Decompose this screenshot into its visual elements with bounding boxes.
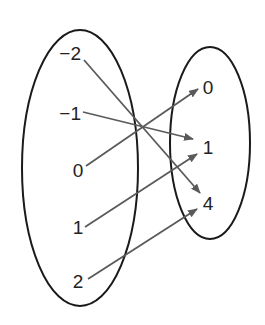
domain-value-1: 1: [73, 217, 84, 238]
domain-value-2: 2: [73, 271, 84, 292]
domain-value-neg1: −1: [59, 103, 81, 124]
mapping-diagram: −2 −1 0 1 2 0 1 4: [0, 0, 265, 325]
arrow-0-to-0: [86, 89, 198, 166]
range-value-0: 0: [203, 77, 214, 98]
range-value-1: 1: [203, 137, 214, 158]
arrow-neg1-to-1: [83, 112, 193, 139]
arrow-2-to-4: [88, 209, 197, 279]
domain-value-0: 0: [73, 160, 84, 181]
arrow-1-to-1: [85, 154, 197, 227]
domain-value-neg2: −2: [59, 43, 81, 64]
range-value-4: 4: [203, 193, 214, 214]
